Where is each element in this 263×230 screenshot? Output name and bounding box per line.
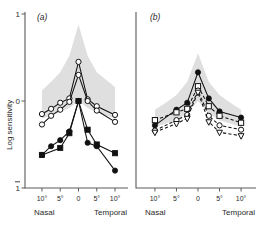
data-point-open-circle: [238, 127, 243, 132]
data-point-filled-circle: [85, 140, 90, 145]
data-point-filled-circle: [206, 96, 211, 101]
data-point-filled-circle: [152, 123, 157, 128]
data-point-filled-circle: [195, 70, 200, 75]
data-point-open-circle: [67, 99, 72, 104]
x-tick-label: 5°: [173, 195, 180, 202]
data-point-open-square: [206, 104, 211, 109]
x-tick-label: 5°: [93, 195, 100, 202]
data-point-filled-square: [67, 131, 72, 136]
data-point-open-triangle-down: [238, 134, 244, 140]
panel-b: (b): [136, 12, 256, 192]
x-tick-label: 10°: [110, 195, 121, 202]
data-point-open-circle: [76, 59, 81, 64]
x-tick-label: 0: [196, 195, 200, 202]
data-point-open-circle: [112, 119, 117, 124]
data-point-open-circle: [76, 72, 81, 77]
data-point-open-square: [174, 110, 179, 115]
data-point-open-triangle-down: [152, 130, 158, 136]
y-axis-title: Log sensitivity: [5, 100, 14, 150]
y-axis-labels: Log sensitivity 1 0 1: [0, 0, 21, 193]
data-point-filled-circle: [238, 115, 243, 120]
data-point-open-circle: [48, 106, 53, 111]
x-axis-labels: 10°5°05°10°NasalTemporal10°5°05°10°Nasal…: [34, 195, 255, 217]
data-point-open-circle: [39, 122, 44, 127]
data-point-open-square: [217, 113, 222, 118]
x-tick-label: 10°: [37, 195, 48, 202]
panel-a-band: [42, 24, 115, 118]
x-tick-label: 10°: [150, 195, 161, 202]
data-point-open-circle: [112, 112, 117, 117]
two-panel-sensitivity-chart: (a) (b) Log sensitivity 1 0 1 10°5°05°10…: [0, 0, 263, 230]
data-point-open-circle: [94, 108, 99, 113]
y-tick-label-bottom: 1: [16, 184, 21, 193]
panel-a: (a): [22, 12, 129, 192]
data-point-filled-circle: [48, 144, 53, 149]
data-point-open-square: [152, 118, 157, 123]
y-tick-label-top: 1: [16, 10, 21, 19]
data-point-filled-square: [112, 151, 117, 156]
data-point-open-circle: [58, 100, 63, 105]
data-point-filled-square: [94, 142, 99, 147]
data-point-filled-circle: [112, 168, 117, 173]
x-tick-label: 0: [77, 195, 81, 202]
normal-range-band-a: [42, 24, 115, 118]
data-point-open-circle: [85, 98, 90, 103]
x-axis-left-label-b: Nasal: [145, 208, 166, 217]
y-tick-label-mid: 0: [16, 97, 21, 106]
x-axis-left-label-a: Nasal: [34, 208, 55, 217]
data-point-open-circle: [217, 123, 222, 128]
data-point-filled-square: [85, 127, 90, 132]
data-point-filled-square: [76, 98, 81, 103]
panel-a-label: (a): [37, 12, 48, 22]
x-tick-label: 10°: [236, 195, 247, 202]
data-point-filled-square: [39, 152, 44, 157]
x-tick-label: 5°: [57, 195, 64, 202]
data-point-filled-circle: [58, 138, 63, 143]
data-point-open-circle: [58, 107, 63, 112]
panel-b-label: (b): [150, 12, 161, 22]
figure-container: (a) (b) Log sensitivity 1 0 1 10°5°05°10…: [0, 0, 263, 230]
x-axis-right-label-b: Temporal: [222, 208, 255, 217]
panel-a-series-group: [39, 59, 117, 173]
x-axis-right-label-a: Temporal: [94, 208, 127, 217]
data-point-open-circle: [48, 113, 53, 118]
data-point-open-triangle-down: [174, 122, 180, 128]
data-point-open-circle: [39, 111, 44, 116]
x-tick-label: 5°: [216, 195, 223, 202]
data-point-open-square: [238, 120, 243, 125]
data-point-filled-square: [58, 145, 63, 150]
data-point-open-triangle-down: [217, 130, 223, 136]
